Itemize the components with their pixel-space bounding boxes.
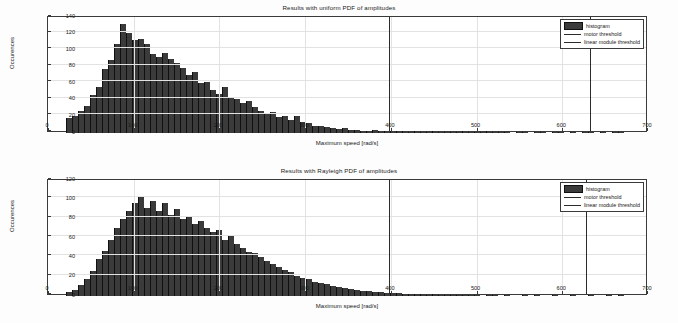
x-tick-label: 0 (35, 122, 59, 128)
histogram-bar (588, 295, 594, 296)
plot-area-uniform: histogrammotor thresholdlinear module th… (47, 16, 647, 132)
y-tick-label: 20 (57, 112, 75, 118)
y-tick-label: 0 (57, 129, 75, 135)
motor-threshold-line (389, 17, 390, 131)
legend-label: histogram (586, 22, 610, 30)
x-tick-label: 200 (206, 122, 230, 128)
x-tick-label: 300 (292, 122, 316, 128)
y-tick (48, 31, 51, 32)
gridline-horizontal (48, 97, 646, 98)
x-tick (391, 291, 392, 294)
y-axis-label-rayleigh: Occurences (9, 181, 15, 251)
x-tick-label: 600 (549, 122, 573, 128)
y-tick-label: 120 (57, 176, 75, 182)
gridline-horizontal (48, 235, 646, 236)
histogram-bar (606, 295, 612, 296)
legend-line-icon (564, 194, 581, 200)
x-tick-label: 400 (378, 285, 402, 291)
gridline-horizontal (48, 196, 646, 197)
gridline-horizontal (48, 80, 646, 81)
gridline-horizontal (48, 31, 646, 32)
x-tick-label: 600 (549, 285, 573, 291)
x-tick (477, 128, 478, 131)
y-tick (48, 254, 51, 255)
y-tick-label: 100 (57, 46, 75, 52)
legend-item[interactable]: motor threshold (564, 30, 640, 38)
x-tick (562, 291, 563, 294)
gridline-horizontal (48, 254, 646, 255)
histogram-bar (504, 295, 510, 296)
legend-rayleigh[interactable]: histogrammotor thresholdlinear module th… (560, 182, 644, 212)
legend-item[interactable]: motor threshold (564, 193, 640, 201)
legend-line-icon (564, 31, 581, 37)
x-axis-label-rayleigh: Maximum speed [rad/s] (47, 303, 647, 309)
x-tick-label: 400 (378, 122, 402, 128)
y-tick-label: 20 (57, 272, 75, 278)
y-tick (48, 274, 51, 275)
x-tick-label: 700 (635, 122, 659, 128)
histogram-bar (534, 295, 540, 296)
x-tick (219, 291, 220, 294)
y-tick-label: 80 (57, 62, 75, 68)
y-tick (48, 64, 51, 65)
x-axis-label-uniform: Maximum speed [rad/s] (47, 140, 647, 146)
legend-item[interactable]: histogram (564, 22, 640, 30)
histogram-bars-rayleigh (48, 180, 648, 296)
y-tick (48, 97, 51, 98)
legend-label: motor threshold (584, 30, 621, 38)
x-tick (647, 291, 648, 294)
x-tick-label: 300 (292, 285, 316, 291)
x-tick-label: 700 (635, 285, 659, 291)
x-tick (477, 291, 478, 294)
histogram-bar (492, 295, 498, 296)
legend-item[interactable]: linear module threshold (564, 201, 640, 209)
y-tick-label: 0 (57, 292, 75, 298)
chart-panel-uniform: Results with uniform PDF of amplitudes h… (0, 4, 678, 160)
gridline-horizontal (48, 216, 646, 217)
legend-line-icon (564, 39, 581, 45)
legend-swatch-icon (564, 22, 583, 30)
histogram-bar (522, 132, 528, 133)
histogram-bars-uniform (48, 17, 648, 133)
y-tick (48, 216, 51, 217)
legend-label: linear module threshold (584, 201, 640, 209)
y-tick-label: 140 (57, 13, 75, 19)
chart-panel-rayleigh: Results with Rayleigh PDF of amplitudes … (0, 167, 678, 323)
x-tick-label: 100 (121, 285, 145, 291)
y-tick-label: 120 (57, 29, 75, 35)
legend-item[interactable]: histogram (564, 185, 640, 193)
legend-line-icon (564, 202, 581, 208)
legend-label: linear module threshold (584, 38, 640, 46)
x-tick (305, 291, 306, 294)
histogram-bar (558, 132, 564, 133)
y-tick (48, 130, 51, 131)
y-tick-label: 40 (57, 95, 75, 101)
x-tick-label: 100 (121, 122, 145, 128)
motor-threshold-line (389, 180, 390, 294)
histogram-bar (522, 295, 528, 296)
chart-title-rayleigh: Results with Rayleigh PDF of amplitudes (0, 167, 678, 174)
histogram-bar (552, 295, 558, 296)
gridline-horizontal (48, 274, 646, 275)
histogram-bar (570, 295, 576, 296)
y-tick-label: 80 (57, 214, 75, 220)
y-tick (48, 196, 51, 197)
gridline-horizontal (48, 64, 646, 65)
histogram-bar (618, 132, 624, 133)
legend-item[interactable]: linear module threshold (564, 38, 640, 46)
x-tick (305, 128, 306, 131)
x-tick-label: 200 (206, 285, 230, 291)
gridline-horizontal (48, 47, 646, 48)
legend-swatch-icon (564, 185, 583, 193)
x-tick (562, 128, 563, 131)
histogram-bar (504, 132, 510, 133)
y-tick (48, 235, 51, 236)
y-axis-label-uniform: Occurences (9, 18, 15, 88)
histogram-bar (588, 132, 594, 133)
y-tick (48, 113, 51, 114)
x-tick (134, 291, 135, 294)
histogram-bar (618, 295, 624, 296)
x-tick-label: 500 (464, 285, 488, 291)
histogram-bar (570, 132, 576, 133)
legend-uniform[interactable]: histogrammotor thresholdlinear module th… (560, 19, 644, 49)
